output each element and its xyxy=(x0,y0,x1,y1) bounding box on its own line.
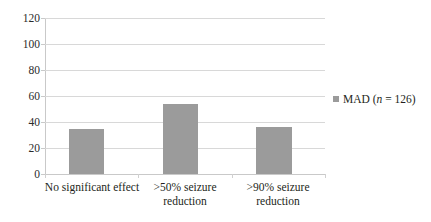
bar-no-significant-effect xyxy=(69,129,104,175)
x-axis-tick-1 xyxy=(138,174,139,178)
bar-over-90-percent-seizure-reduction xyxy=(256,127,292,174)
gridline-60 xyxy=(45,96,325,97)
x-axis-label-over-90-percent-seizure-reduction: >90% seizure reduction xyxy=(228,180,328,208)
y-axis-label-20: 20 xyxy=(2,143,40,155)
x-axis-tick-2 xyxy=(232,174,233,178)
y-axis-label-120: 120 xyxy=(2,13,40,25)
y-axis-label-80: 80 xyxy=(2,65,40,77)
x-axis-tick-0 xyxy=(45,174,46,178)
bar-over-50-percent-seizure-reduction xyxy=(163,104,198,174)
x-axis-label-no-significant-effect: No significant effect xyxy=(39,180,145,194)
gridline-80 xyxy=(45,70,325,71)
plot-area xyxy=(45,18,325,174)
legend-swatch-mad xyxy=(333,96,339,102)
gridline-120 xyxy=(45,18,325,19)
gridline-0 xyxy=(45,174,325,175)
y-axis-label-100: 100 xyxy=(2,39,40,51)
y-axis-label-40: 40 xyxy=(2,117,40,129)
y-axis-label-60: 60 xyxy=(2,91,40,103)
bar-chart: 120 100 80 60 40 20 0 No significant eff… xyxy=(0,0,431,222)
x-axis-tick-3 xyxy=(325,174,326,178)
x-axis-label-over-50-percent-seizure-reduction: >50% seizure reduction xyxy=(135,180,235,208)
y-axis-label-0: 0 xyxy=(2,169,40,181)
legend: MAD (n = 126) xyxy=(333,93,416,105)
y-axis-labels: 120 100 80 60 40 20 0 xyxy=(0,0,40,222)
legend-label-prefix: MAD ( xyxy=(343,93,377,105)
legend-label-mad: MAD (n = 126) xyxy=(343,93,416,105)
legend-label-suffix: = 126) xyxy=(382,93,415,105)
gridline-100 xyxy=(45,44,325,45)
